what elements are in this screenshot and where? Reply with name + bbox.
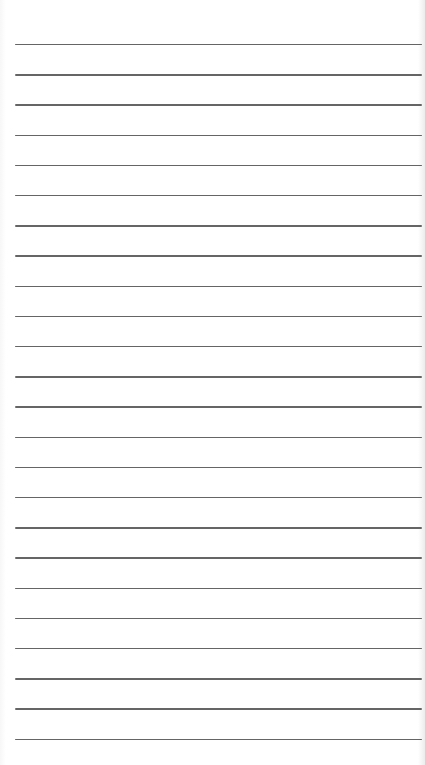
lined-paper-sheet <box>0 0 425 765</box>
ruled-line <box>15 557 422 558</box>
ruled-line <box>15 437 422 438</box>
ruled-line <box>15 588 422 589</box>
ruled-line <box>15 406 422 407</box>
ruled-line <box>15 135 422 136</box>
ruled-line <box>15 255 422 256</box>
ruled-line <box>15 497 422 498</box>
ruled-line <box>15 165 422 166</box>
ruled-line <box>15 316 422 317</box>
ruled-line <box>15 648 422 649</box>
ruled-line <box>15 346 422 347</box>
ruled-line <box>15 527 422 528</box>
ruled-line <box>15 286 422 287</box>
ruled-line <box>15 225 422 226</box>
ruled-line <box>15 376 422 377</box>
ruled-line <box>15 104 422 105</box>
ruled-line <box>15 74 422 75</box>
ruled-line <box>15 195 422 196</box>
ruled-line <box>15 467 422 468</box>
ruled-line <box>15 44 422 45</box>
ruled-line <box>15 618 422 619</box>
ruled-line <box>15 708 422 709</box>
ruled-line <box>15 739 422 740</box>
ruled-line <box>15 678 422 679</box>
